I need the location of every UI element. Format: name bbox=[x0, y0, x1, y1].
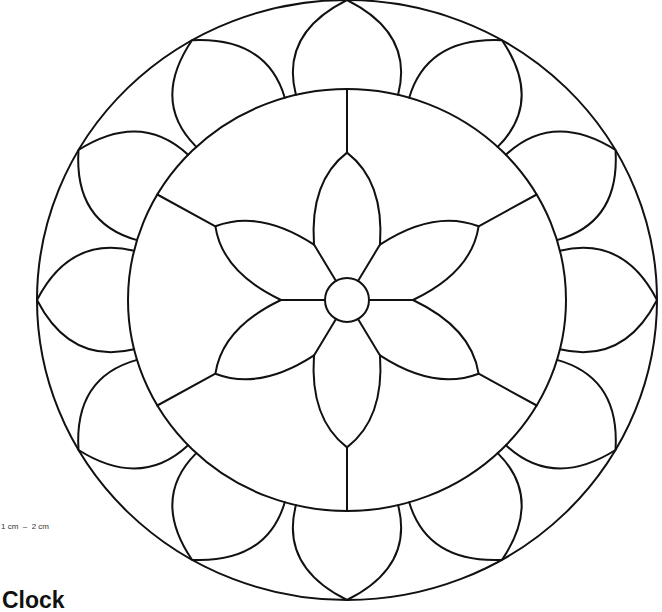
outer-petal bbox=[78, 132, 188, 241]
center-spoke bbox=[314, 319, 336, 355]
outer-petal bbox=[78, 360, 188, 469]
outer-petal bbox=[409, 40, 521, 147]
flower-petal bbox=[215, 300, 314, 379]
flower-petal bbox=[380, 221, 479, 300]
outer-petal bbox=[506, 132, 616, 241]
radial-divider bbox=[157, 195, 215, 227]
center-spoke bbox=[314, 245, 336, 281]
flower-petal bbox=[314, 153, 381, 245]
center-spoke bbox=[358, 245, 380, 281]
center-hub bbox=[325, 278, 369, 322]
pattern-title: Clock bbox=[2, 587, 65, 612]
outer-petal bbox=[409, 453, 521, 560]
outer-petal bbox=[293, 505, 401, 600]
flower-petal bbox=[380, 300, 479, 379]
flower-petal bbox=[215, 221, 314, 300]
outer-petal bbox=[37, 248, 134, 352]
scale-note: 1 cm – 2 cm bbox=[1, 522, 49, 531]
center-spokes bbox=[281, 245, 413, 356]
flower-petal bbox=[314, 355, 381, 447]
outer-petal bbox=[560, 248, 657, 352]
clock-pattern bbox=[0, 0, 662, 612]
radial-divider bbox=[479, 374, 537, 406]
outer-petal bbox=[293, 0, 401, 95]
outer-petal bbox=[172, 453, 284, 560]
center-spoke bbox=[358, 319, 380, 355]
outer-petal bbox=[172, 40, 284, 147]
outer-petal bbox=[506, 360, 616, 469]
radial-divider bbox=[157, 374, 215, 406]
radial-divider bbox=[479, 195, 537, 227]
center-flower bbox=[215, 153, 478, 448]
